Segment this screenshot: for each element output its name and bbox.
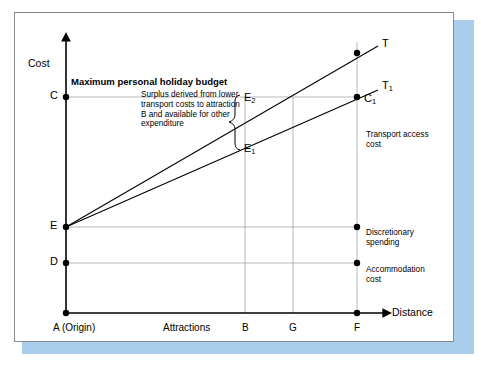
x-point-label-g: G (289, 322, 297, 333)
point-F (354, 310, 360, 316)
point-C1 (354, 94, 360, 100)
y-point-label-D: D (50, 256, 58, 267)
y-point-label-E: E (50, 220, 57, 231)
curve-label-C1-sub: 1 (372, 97, 376, 106)
y-point-label-C: C (50, 90, 58, 101)
x-point-label-b: B (242, 322, 249, 333)
discretionary-spending-label: Discretionary spending (366, 228, 430, 248)
x-axis-label: Distance (392, 307, 433, 318)
figure-root: Cost Distance Maximum personal holiday b… (0, 0, 481, 369)
x-point-label-a-origin: A (Origin) (53, 322, 95, 333)
point-C (63, 94, 69, 100)
curve-label-T1-base: T (382, 79, 389, 91)
curve-label-E1: E1 (244, 143, 256, 157)
point-D (63, 260, 69, 266)
curve-label-C1-base: C (364, 92, 372, 104)
curve-label-T-base: T (382, 37, 389, 49)
accommodation-cost-label: Accommodation cost (366, 265, 430, 285)
transport-line-T (66, 46, 378, 227)
x-point-label-attractions: Attractions (163, 322, 210, 333)
curve-label-C1: C1 (364, 93, 376, 107)
vertical-gridlines (245, 42, 357, 313)
point-E (63, 224, 69, 230)
x-point-label-f: F (354, 322, 360, 333)
curve-label-E2: E2 (244, 92, 256, 106)
point-F-E-level (354, 224, 360, 230)
curve-label-T: T (382, 38, 389, 49)
surplus-note: Surplus derived from lower transport cos… (141, 90, 241, 129)
point-T (354, 50, 360, 56)
budget-line-label: Maximum personal holiday budget (71, 76, 227, 87)
curve-label-E1-sub: 1 (251, 147, 255, 156)
curve-label-T1: T1 (382, 80, 393, 94)
y-axis-label: Cost (28, 58, 50, 69)
curve-label-E2-sub: 2 (251, 96, 255, 105)
transport-access-cost-label: Transport access cost (366, 130, 430, 150)
point-A-origin (63, 310, 69, 316)
point-F-D-level (354, 260, 360, 266)
curve-label-T1-sub: 1 (389, 84, 393, 93)
